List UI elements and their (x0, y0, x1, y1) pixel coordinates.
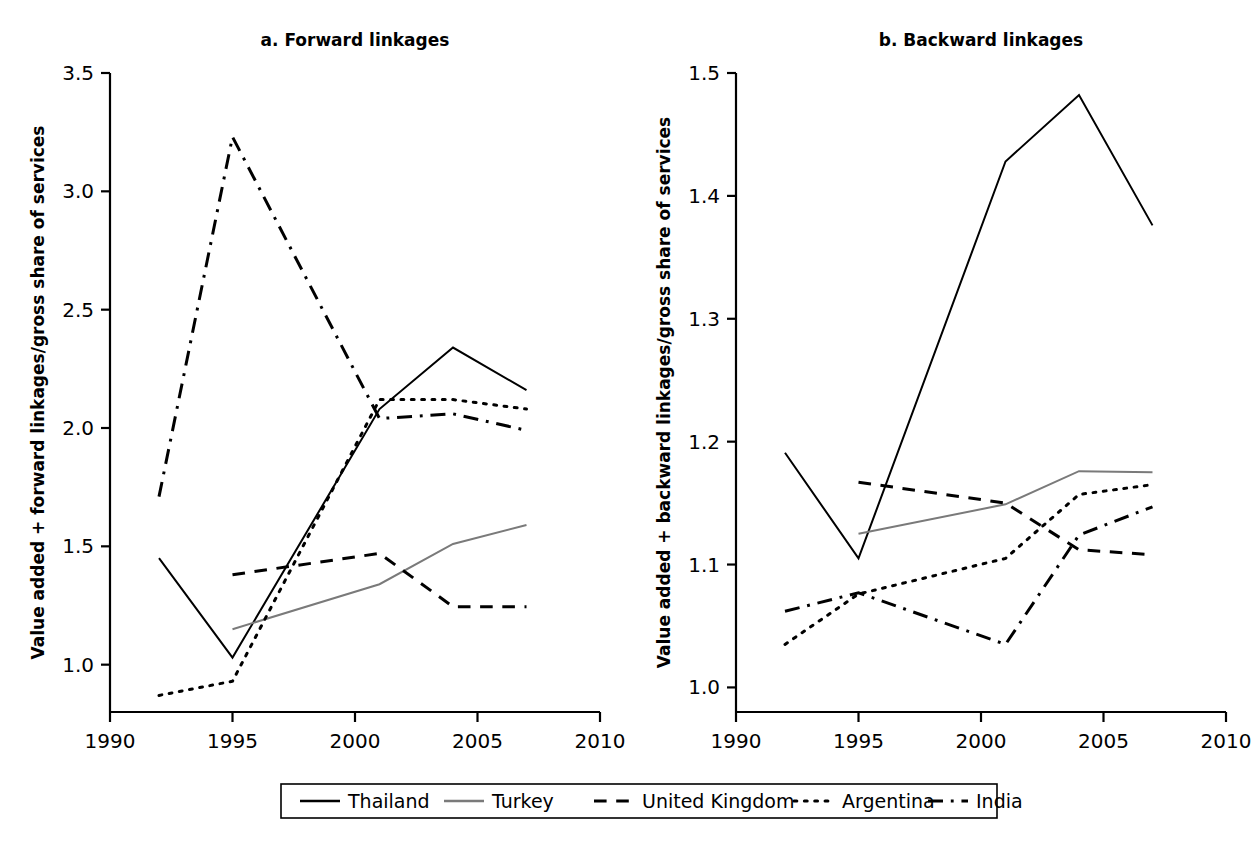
x-tick-label-b-3: 2005 (1078, 729, 1129, 753)
x-tick-label-b-4: 2010 (1201, 729, 1252, 753)
y-tick-label-b-2: 1.2 (688, 430, 720, 454)
series-line-b-turkey (859, 471, 1153, 534)
panel-title-a: a. Forward linkages (261, 30, 450, 50)
x-tick-label-b-2: 2000 (956, 729, 1007, 753)
y-tick-label-a-0: 1.0 (62, 653, 94, 677)
legend-label-india[interactable]: India (976, 790, 1023, 812)
y-tick-label-a-3: 2.5 (62, 298, 94, 322)
panel-title-b: b. Backward linkages (879, 30, 1083, 50)
legend-label-turkey[interactable]: Turkey (491, 790, 554, 812)
series-line-a-thailand (159, 348, 527, 658)
x-tick-label-a-0: 1990 (85, 729, 136, 753)
series-line-b-india (785, 507, 1153, 645)
y-tick-label-b-1: 1.1 (688, 553, 720, 577)
y-tick-label-b-4: 1.4 (688, 184, 720, 208)
legend-label-argentina[interactable]: Argentina (842, 790, 935, 812)
y-tick-label-a-4: 3.0 (62, 179, 94, 203)
x-tick-label-a-4: 2010 (575, 729, 626, 753)
legend-label-united-kingdom[interactable]: United Kingdom (642, 790, 795, 812)
series-line-b-argentina (785, 485, 1153, 645)
x-tick-label-a-3: 2005 (452, 729, 503, 753)
series-line-a-india (159, 137, 527, 497)
y-tick-label-b-0: 1.0 (688, 675, 720, 699)
panel-a: a. Forward linkages1.01.52.02.53.03.5199… (28, 30, 625, 753)
y-tick-label-b-3: 1.3 (688, 307, 720, 331)
y-tick-label-a-1: 1.5 (62, 534, 94, 558)
x-tick-label-a-2: 2000 (330, 729, 381, 753)
y-tick-label-b-5: 1.5 (688, 61, 720, 85)
series-line-a-argentina (159, 400, 527, 696)
chart-canvas: a. Forward linkages1.01.52.02.53.03.5199… (0, 0, 1256, 851)
panel-b: b. Backward linkages1.01.11.21.31.41.519… (654, 30, 1251, 753)
x-tick-label-a-1: 1995 (207, 729, 258, 753)
x-tick-label-b-0: 1990 (711, 729, 762, 753)
legend-label-thailand[interactable]: Thailand (347, 790, 430, 812)
x-tick-label-b-1: 1995 (833, 729, 884, 753)
y-tick-label-a-2: 2.0 (62, 416, 94, 440)
series-line-a-turkey (233, 525, 527, 629)
y-tick-label-a-5: 3.5 (62, 61, 94, 85)
series-line-b-united-kingdom (859, 482, 1153, 555)
series-line-b-thailand (785, 95, 1153, 558)
legend: ThailandTurkeyUnited KingdomArgentinaInd… (281, 784, 1023, 818)
figure-root: a. Forward linkages1.01.52.02.53.03.5199… (0, 0, 1256, 851)
y-axis-title-a: Value added + forward linkages/gross sha… (28, 126, 48, 660)
y-axis-title-b: Value added + backward linkages/gross sh… (654, 117, 674, 668)
